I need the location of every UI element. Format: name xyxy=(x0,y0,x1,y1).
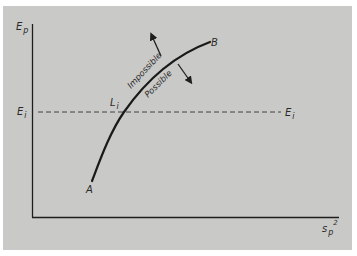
ei-left-label: Ei xyxy=(17,106,27,120)
diagram-canvas: Ep Ei Ei Li A B Impossible Possible sp2 xyxy=(0,0,357,256)
li-label: Li xyxy=(110,97,120,111)
y-axis-label: Ep xyxy=(16,21,28,35)
point-a-label: A xyxy=(85,184,93,195)
ei-right-label: Ei xyxy=(285,107,295,121)
point-b-label: B xyxy=(211,37,218,48)
arrow-down-right-icon xyxy=(178,64,190,81)
x-axis-label: sp2 xyxy=(322,219,338,237)
